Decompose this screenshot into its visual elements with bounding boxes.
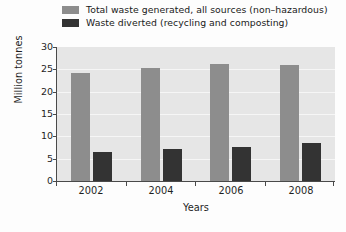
y-tick-label-5: 5 [31,154,53,164]
y-tick-label-20: 20 [31,87,53,97]
legend-swatch-waste-diverted [62,19,79,27]
bar-series-container [57,47,335,181]
bar-group-2002 [57,47,127,181]
y-axis-title: Million tonnes [13,15,24,125]
bar-diverted-2002 [93,152,112,181]
chart-legend: Total waste generated, all sources (non–… [62,3,342,29]
bar-diverted-2008 [302,143,321,181]
y-tick-label-10: 10 [31,131,53,141]
plot-area [56,47,335,182]
legend-swatch-total-waste [62,6,79,14]
y-tick-label-30: 30 [31,42,53,52]
bar-total-2008 [280,65,299,181]
legend-item-waste-diverted: Waste diverted (recycling and composting… [62,16,342,29]
x-tick-label-2006: 2006 [196,185,266,196]
legend-item-total-waste: Total waste generated, all sources (non–… [62,3,342,16]
bar-group-2004 [127,47,197,181]
y-tick-label-25: 25 [31,64,53,74]
bar-total-2002 [71,73,90,181]
bar-total-2004 [141,68,160,181]
x-tick-label-2002: 2002 [56,185,126,196]
bar-group-2008 [266,47,336,181]
y-tick-label-0: 0 [31,176,53,186]
legend-label-waste-diverted: Waste diverted (recycling and composting… [86,18,288,28]
y-axis: 30 25 20 15 10 5 0 [26,47,53,181]
bar-group-2006 [196,47,266,181]
bar-diverted-2004 [163,149,182,181]
x-axis-title: Years [56,202,336,213]
x-tick-label-2004: 2004 [126,185,196,196]
bar-total-2006 [210,64,229,181]
bar-chart: Total waste generated, all sources (non–… [0,0,346,232]
y-tick-label-15: 15 [31,109,53,119]
x-tick-label-2008: 2008 [266,185,336,196]
legend-label-total-waste: Total waste generated, all sources (non–… [86,5,328,15]
x-axis-labels: 2002 2004 2006 2008 [56,185,336,196]
bar-diverted-2006 [232,147,251,181]
